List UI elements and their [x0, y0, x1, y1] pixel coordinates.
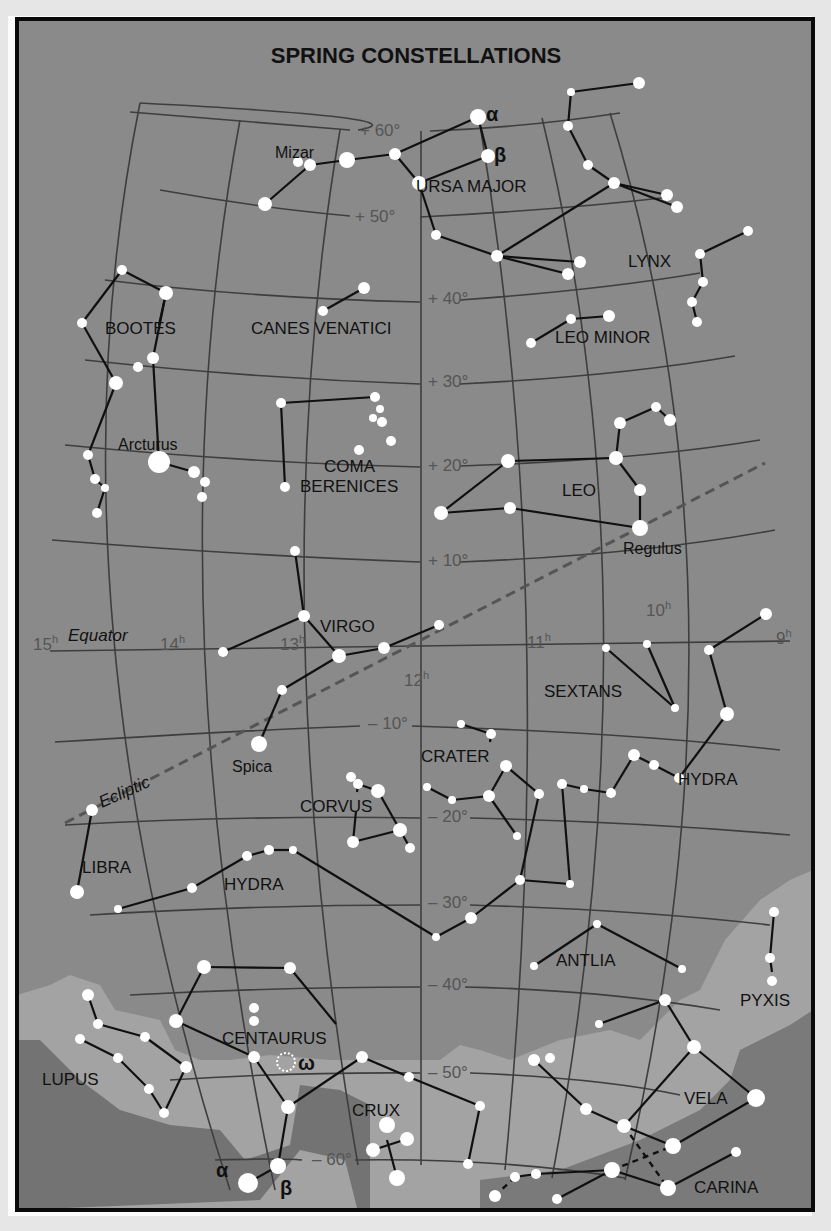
star — [566, 880, 574, 888]
star — [574, 256, 586, 268]
star — [747, 1089, 765, 1107]
map-area: + 60°+ 50°+ 40°+ 30°+ 20°+ 10°– 10°– 20°… — [17, 19, 813, 1217]
star — [75, 1034, 85, 1044]
star — [513, 832, 521, 840]
star — [133, 362, 143, 372]
star — [356, 1051, 368, 1063]
declination-label: + 30° — [428, 372, 468, 391]
star — [389, 1170, 405, 1186]
star — [280, 482, 290, 492]
star — [528, 1054, 540, 1066]
star — [144, 1084, 154, 1094]
star — [563, 121, 573, 131]
star — [376, 405, 384, 413]
star — [604, 1162, 620, 1178]
star — [169, 1014, 183, 1028]
star — [270, 1158, 286, 1174]
declination-label: – 50° — [428, 1063, 468, 1082]
star — [281, 1100, 295, 1114]
star — [552, 1194, 562, 1204]
constellation-label: LYNX — [628, 252, 671, 271]
star — [661, 189, 673, 201]
star — [614, 417, 626, 429]
star — [687, 1040, 701, 1054]
declination-label: + 60° — [360, 121, 400, 140]
star — [92, 508, 102, 518]
star — [248, 1051, 260, 1063]
star — [77, 318, 87, 328]
star — [113, 1053, 123, 1063]
star — [448, 796, 456, 804]
star — [90, 474, 100, 484]
star — [431, 230, 441, 240]
star — [769, 907, 779, 917]
star — [765, 953, 775, 963]
star — [510, 1172, 520, 1182]
declination-label: + 50° — [355, 207, 395, 226]
star — [606, 788, 616, 798]
star — [628, 749, 640, 761]
star — [284, 962, 296, 974]
star — [432, 933, 440, 941]
star — [393, 823, 407, 837]
star — [593, 920, 601, 928]
star — [531, 1169, 541, 1179]
star — [760, 608, 772, 620]
star — [583, 160, 593, 170]
constellation-label: VIRGO — [320, 617, 375, 636]
star-name-label: Spica — [232, 758, 272, 775]
star — [603, 310, 615, 322]
star — [481, 149, 495, 163]
star — [692, 317, 702, 327]
star — [101, 484, 109, 492]
star — [678, 965, 686, 973]
star — [463, 1159, 473, 1169]
star — [264, 845, 274, 855]
star — [242, 851, 252, 861]
star — [389, 148, 401, 160]
star — [249, 1016, 259, 1026]
star — [617, 1119, 631, 1133]
star — [369, 414, 377, 422]
star — [633, 77, 645, 89]
star — [457, 720, 465, 728]
star — [704, 645, 714, 655]
star — [486, 729, 496, 739]
star — [358, 282, 370, 294]
star — [489, 1190, 501, 1202]
star — [339, 152, 355, 168]
star — [70, 885, 84, 899]
star — [86, 804, 98, 816]
star — [687, 297, 697, 307]
star — [500, 760, 512, 772]
constellation-label: CANES VENATICI — [251, 319, 391, 338]
star — [651, 402, 661, 412]
star — [634, 484, 646, 496]
star — [491, 250, 503, 262]
star — [148, 451, 170, 473]
star — [117, 265, 127, 275]
star — [378, 642, 390, 654]
constellation-label: CRUX — [352, 1101, 400, 1120]
star — [238, 1173, 258, 1193]
star — [180, 1061, 192, 1073]
star — [218, 647, 228, 657]
star — [515, 875, 525, 885]
star — [405, 843, 415, 853]
star — [82, 989, 94, 1001]
constellation-label: CENTAURUS — [222, 1029, 327, 1048]
star — [609, 451, 623, 465]
star — [649, 760, 659, 770]
star — [534, 789, 544, 799]
star — [197, 960, 211, 974]
star-name-label: Regulus — [623, 540, 682, 557]
constellation-label: PYXIS — [740, 991, 790, 1010]
star — [347, 836, 359, 848]
page-title: SPRING CONSTELLATIONS — [271, 43, 562, 68]
constellation-label: SEXTANS — [544, 682, 622, 701]
star — [423, 783, 431, 791]
star — [276, 398, 286, 408]
declination-label: – 30° — [428, 893, 468, 912]
star — [557, 779, 567, 789]
star — [249, 1003, 259, 1013]
